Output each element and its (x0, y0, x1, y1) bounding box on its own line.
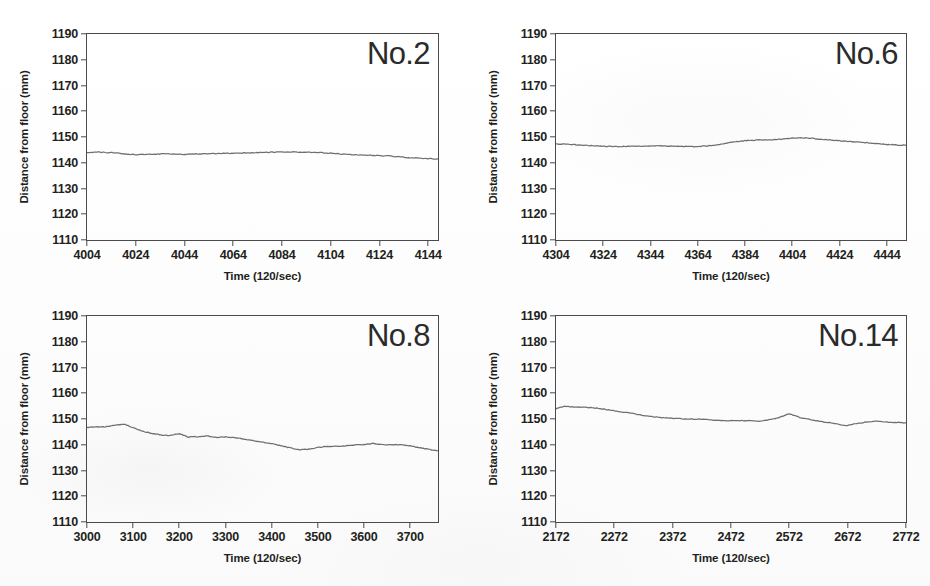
plot-area-no14: No.14 1110112011301140115011601170118011… (555, 315, 907, 523)
chart-panel-no6: Distance from floor (mm) No.6 1110112011… (465, 0, 930, 293)
x-axis-tick-mark (317, 522, 318, 528)
y-axis-tick-mark (550, 470, 556, 471)
y-axis-tick-mark (81, 136, 87, 137)
y-axis-tick-mark (81, 85, 87, 86)
x-axis-tick-mark (792, 240, 793, 246)
plot-area-no2: No.2 11101120113011401150116011701180119… (86, 33, 439, 241)
x-axis-tick-mark (614, 522, 615, 528)
y-axis-tick-mark (550, 33, 556, 34)
plot-area-no6: No.6 11101120113011401150116011701180119… (555, 33, 907, 241)
x-axis-tick-mark (847, 522, 848, 528)
x-axis-tick-mark (730, 522, 731, 528)
y-axis-tick-mark (550, 418, 556, 419)
y-axis-tick-mark (550, 367, 556, 368)
line-trace-no8 (87, 316, 438, 522)
y-axis-tick-mark (550, 188, 556, 189)
x-axis-tick-mark (789, 522, 790, 528)
y-axis-tick-mark (550, 162, 556, 163)
y-axis-tick-mark (81, 188, 87, 189)
y-axis-tick-mark (81, 444, 87, 445)
x-axis-tick-mark (225, 522, 226, 528)
x-axis-tick-mark (410, 522, 411, 528)
trace-path-no8 (87, 424, 438, 451)
trace-path-no2 (87, 152, 438, 160)
trace-path-no6 (556, 138, 906, 147)
y-axis-tick-mark (81, 315, 87, 316)
x-axis-tick-mark (281, 240, 282, 246)
y-axis-tick-mark (81, 496, 87, 497)
y-axis-tick-mark (81, 111, 87, 112)
y-axis-tick-mark (81, 59, 87, 60)
x-axis-label: Time (120/sec) (86, 552, 439, 564)
y-axis-tick-mark (81, 162, 87, 163)
x-axis-tick-mark (271, 522, 272, 528)
x-axis-tick-mark (86, 240, 87, 246)
x-axis-tick-mark (603, 240, 604, 246)
x-axis-tick-mark (555, 240, 556, 246)
y-axis-tick-mark (550, 444, 556, 445)
x-axis-tick-mark (697, 240, 698, 246)
y-axis-tick-mark (81, 393, 87, 394)
x-axis-tick-mark (135, 240, 136, 246)
line-trace-no2 (87, 34, 438, 240)
plot-area-no8: No.8 11101120113011401150116011701180119… (86, 315, 439, 523)
y-axis-tick-mark (550, 315, 556, 316)
x-axis-tick-mark (363, 522, 364, 528)
x-axis-tick-mark (428, 240, 429, 246)
x-axis-label: Time (120/sec) (555, 552, 907, 564)
x-axis-tick-mark (86, 522, 87, 528)
y-axis-tick-mark (550, 136, 556, 137)
x-axis-tick-mark (839, 240, 840, 246)
x-axis-tick-mark (132, 522, 133, 528)
trace-path-no14 (556, 406, 906, 426)
figure-panel-grid: Distance from floor (mm) No.2 1110112011… (0, 0, 930, 586)
x-axis-tick-mark (672, 522, 673, 528)
y-axis-tick-mark (550, 214, 556, 215)
y-axis-tick-mark (81, 214, 87, 215)
x-axis-tick-mark (555, 522, 556, 528)
x-axis-tick-mark (379, 240, 380, 246)
y-axis-label: Distance from floor (mm) (487, 70, 499, 203)
y-axis-label: Distance from floor (mm) (18, 352, 30, 485)
y-axis-tick-mark (81, 33, 87, 34)
y-axis-label: Distance from floor (mm) (487, 352, 499, 485)
x-axis-tick-mark (650, 240, 651, 246)
y-axis-label: Distance from floor (mm) (18, 70, 30, 203)
y-axis-tick-mark (550, 496, 556, 497)
y-axis-tick-mark (81, 470, 87, 471)
y-axis-tick-mark (81, 341, 87, 342)
y-axis-tick-mark (550, 85, 556, 86)
x-axis-tick-mark (330, 240, 331, 246)
chart-panel-no14: Distance from floor (mm) No.14 111011201… (465, 293, 930, 586)
chart-panel-no8: Distance from floor (mm) No.8 1110112011… (0, 293, 465, 586)
x-axis-tick-mark (179, 522, 180, 528)
line-trace-no6 (556, 34, 906, 240)
y-axis-tick-mark (550, 111, 556, 112)
chart-panel-no2: Distance from floor (mm) No.2 1110112011… (0, 0, 465, 293)
x-axis-label: Time (120/sec) (86, 270, 439, 282)
y-axis-tick-mark (550, 393, 556, 394)
y-axis-tick-mark (550, 341, 556, 342)
x-axis-label: Time (120/sec) (555, 270, 907, 282)
y-axis-tick-mark (81, 367, 87, 368)
y-axis-tick-mark (550, 59, 556, 60)
x-axis-tick-mark (744, 240, 745, 246)
line-trace-no14 (556, 316, 906, 522)
x-axis-tick-mark (905, 522, 906, 528)
x-axis-tick-mark (886, 240, 887, 246)
x-axis-tick-mark (233, 240, 234, 246)
x-axis-tick-mark (184, 240, 185, 246)
y-axis-tick-mark (81, 418, 87, 419)
